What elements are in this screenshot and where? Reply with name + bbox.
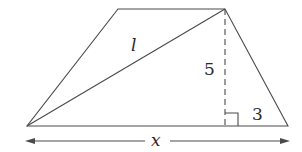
diagonal-label: l [131,35,136,55]
trapezoid-diagram: l 5 3 x [0,0,302,152]
base-label: x [151,130,161,150]
diagonal-line [27,9,225,126]
right-angle-marker [225,113,238,126]
arrowhead-right-icon [280,138,290,144]
trapezoid-outline [27,9,288,126]
height-label: 5 [204,59,215,79]
arrowhead-left-icon [25,138,35,144]
offset-label: 3 [252,104,263,124]
